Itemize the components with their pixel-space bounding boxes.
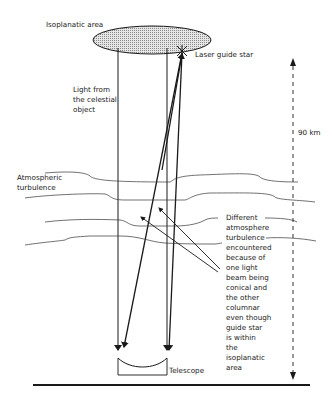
- svg-text:even though: even though: [226, 313, 271, 322]
- svg-text:beam being: beam being: [226, 273, 269, 282]
- pointer-right: [159, 208, 220, 269]
- svg-text:the other: the other: [226, 293, 259, 302]
- svg-text:guide star: guide star: [226, 323, 262, 332]
- svg-text:object: object: [73, 105, 95, 114]
- light-from-object-label: Light from the celestial object: [73, 85, 117, 114]
- diagram-canvas: Isoplanatic area Laser guide star Light …: [0, 0, 332, 405]
- height-arrow-down-icon: [290, 372, 296, 380]
- svg-text:one light: one light: [226, 263, 258, 272]
- isoplanatic-area-ellipse: [93, 26, 211, 54]
- svg-text:the: the: [226, 343, 238, 352]
- pointer-left: [141, 217, 218, 272]
- svg-text:the celestial: the celestial: [73, 95, 117, 104]
- svg-text:columnar: columnar: [226, 303, 260, 312]
- svg-text:Different: Different: [226, 213, 258, 222]
- laser-guide-star-label: Laser guide star: [195, 50, 253, 59]
- svg-text:turbulence: turbulence: [226, 233, 265, 242]
- svg-text:conical and: conical and: [226, 283, 267, 292]
- isoplanatic-area-label: Isoplanatic area: [46, 20, 103, 29]
- height-arrow-up-icon: [290, 58, 296, 66]
- svg-text:atmosphere: atmosphere: [226, 223, 270, 232]
- svg-text:encountered: encountered: [226, 243, 271, 252]
- telescope-label: Telescope: [168, 366, 205, 375]
- svg-text:Light from: Light from: [73, 85, 110, 94]
- svg-text:turbulence: turbulence: [17, 183, 56, 192]
- laser-beam-right: [169, 53, 182, 350]
- svg-text:Atmospheric: Atmospheric: [17, 173, 62, 182]
- svg-text:because of: because of: [226, 253, 266, 262]
- telescope-icon: [118, 358, 167, 375]
- svg-text:is within: is within: [226, 333, 256, 342]
- turbulence-layers: [25, 172, 316, 245]
- atmospheric-turbulence-label: Atmospheric turbulence: [17, 173, 62, 192]
- svg-text:isoplanatic: isoplanatic: [226, 353, 265, 362]
- height-label: 90 km: [298, 128, 321, 137]
- svg-text:area: area: [226, 363, 242, 372]
- explanation-label: Different atmosphere turbulence encounte…: [226, 213, 271, 372]
